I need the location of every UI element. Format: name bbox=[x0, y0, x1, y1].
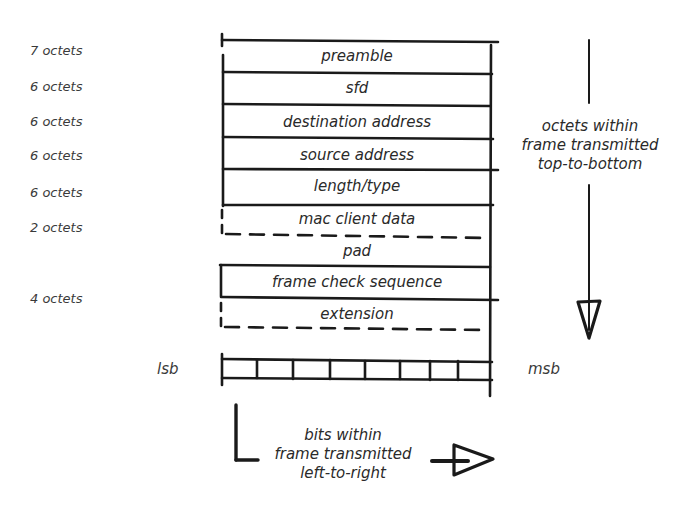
field-frame-check-sequence: frame check sequence bbox=[223, 275, 491, 290]
octet-label-source: 6 octets bbox=[30, 149, 82, 162]
octet-label-length-type: 6 octets bbox=[30, 186, 82, 199]
bit-order-note-line2: frame transmitted bbox=[268, 445, 418, 464]
bit-order-note: bits within frame transmitted left-to-ri… bbox=[268, 426, 418, 483]
field-extension: extension bbox=[223, 307, 491, 322]
field-sfd: sfd bbox=[223, 81, 491, 96]
top-border bbox=[222, 40, 498, 42]
bit-order-note-line3: left-to-right bbox=[268, 464, 418, 483]
octet-label-fcs: 4 octets bbox=[30, 292, 82, 305]
octet-label-mac-client-data: 2 octets bbox=[30, 221, 82, 234]
octet-label-sfd: 6 octets bbox=[30, 80, 82, 93]
octet-order-note: octets within frame transmitted top-to-b… bbox=[510, 117, 670, 174]
bit-order-note-line1: bits within bbox=[268, 426, 418, 445]
octet-label-preamble: 7 octets bbox=[30, 44, 82, 57]
msb-label: msb bbox=[528, 362, 560, 377]
octet-label-destination: 6 octets bbox=[30, 115, 82, 128]
field-mac-client-data: mac client data bbox=[223, 212, 491, 227]
octet-order-note-line2: frame transmitted bbox=[510, 136, 670, 155]
octet-order-note-line3: top-to-bottom bbox=[510, 155, 670, 174]
field-length-type: length/type bbox=[223, 179, 491, 194]
lsb-label: lsb bbox=[157, 362, 179, 377]
field-destination-address: destination address bbox=[223, 115, 491, 130]
field-source-address: source address bbox=[223, 148, 491, 163]
octet-order-note-line1: octets within bbox=[510, 117, 670, 136]
field-pad: pad bbox=[223, 244, 491, 259]
field-preamble: preamble bbox=[223, 49, 491, 64]
